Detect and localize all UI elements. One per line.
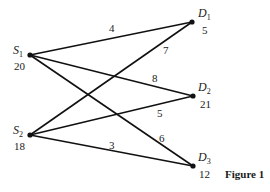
- demand-d1: 5: [202, 24, 208, 36]
- cost-s2-d2: 5: [157, 107, 163, 119]
- transportation-network-diagram: S1 20 S2 18 D1 5 D2 21 D3 12 4 8 6 7 5 3…: [0, 0, 270, 192]
- node-s1: [27, 52, 32, 57]
- demand-d2: 21: [200, 98, 211, 110]
- cost-s1-d3: 6: [159, 132, 165, 144]
- cost-s1-d1: 4: [109, 22, 115, 34]
- node-label-s2: S2: [13, 123, 23, 139]
- node-d1: [189, 19, 194, 24]
- node-s2: [27, 132, 32, 137]
- node-label-d2: D2: [197, 80, 211, 96]
- node-label-d1: D1: [197, 6, 211, 22]
- supply-s2: 18: [14, 140, 26, 152]
- cost-s2-d1: 7: [163, 44, 169, 56]
- node-d2: [190, 93, 195, 98]
- edge-s2-d2: [30, 96, 193, 135]
- node-d3: [190, 163, 195, 168]
- supply-s1: 20: [14, 60, 26, 72]
- cost-s2-d3: 3: [109, 139, 115, 151]
- edge-s1-d2: [30, 55, 193, 96]
- cost-s1-d2: 8: [152, 72, 158, 84]
- node-label-d3: D3: [197, 150, 211, 166]
- node-label-s1: S1: [13, 43, 23, 59]
- figure-caption: Figure 1: [225, 168, 264, 180]
- demand-d3: 12: [199, 168, 210, 180]
